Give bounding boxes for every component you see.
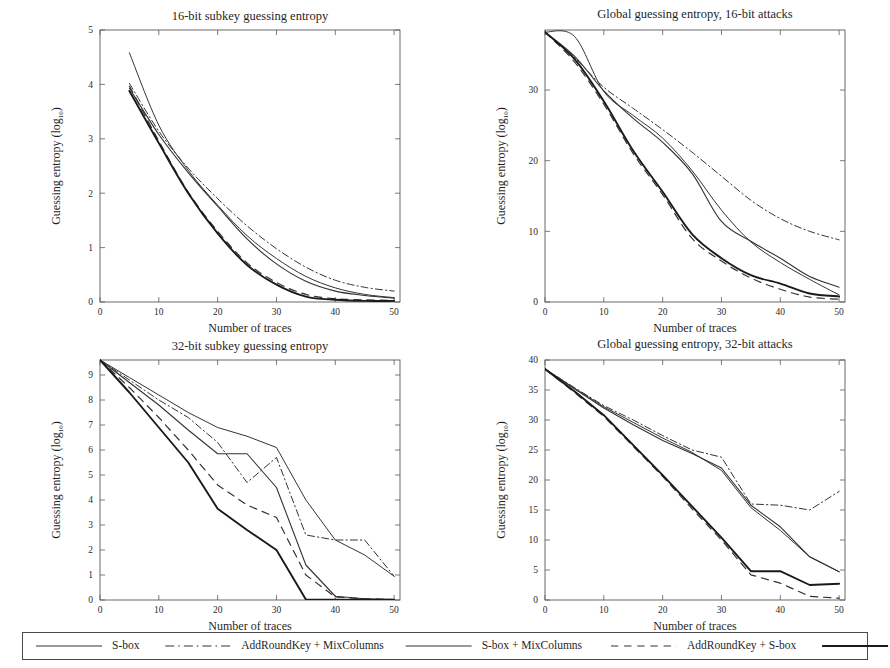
x-axis-label: Number of traces — [208, 321, 292, 335]
series-line — [100, 360, 394, 600]
y-tick-label: 5 — [88, 470, 93, 480]
x-tick-label: 10 — [154, 307, 164, 317]
x-axis-label: Number of traces — [208, 619, 292, 633]
chart-title: 16-bit subkey guessing entropy — [172, 9, 329, 23]
y-tick-label: 2 — [88, 545, 93, 555]
x-tick-label: 20 — [658, 605, 668, 615]
x-tick-label: 50 — [389, 307, 399, 317]
series-line — [129, 91, 394, 301]
plot-frame — [545, 30, 845, 302]
legend-item-3[interactable]: AddRoundKey + S-box — [611, 639, 797, 652]
y-tick-label: 5 — [88, 25, 93, 35]
x-tick-label: 20 — [213, 307, 223, 317]
series-line — [129, 88, 394, 298]
chart-tl: 16-bit subkey guessing entropy0102030405… — [0, 0, 445, 334]
y-tick-label: 0 — [88, 595, 93, 605]
y-tick-label: 3 — [88, 134, 93, 144]
x-tick-label: 0 — [543, 307, 548, 317]
legend-label: AddRoundKey + MixColumns — [241, 639, 384, 652]
y-tick-label: 8 — [88, 395, 93, 405]
legend-label: S-box — [112, 639, 140, 651]
y-tick-label: 4 — [88, 80, 93, 90]
y-tick-label: 3 — [88, 520, 93, 530]
y-tick-label: 0 — [88, 297, 93, 307]
svg-text:Guessing entropy (log10): Guessing entropy (log10) — [494, 421, 510, 539]
x-tick-label: 0 — [543, 605, 548, 615]
y-axis-label: Guessing entropy (log10) — [49, 107, 65, 225]
y-tick-label: 1 — [88, 243, 93, 253]
x-tick-label: 30 — [717, 605, 727, 615]
series-line — [545, 369, 839, 572]
y-tick-label: 5 — [533, 565, 538, 575]
chart-panel-16bit-subkey: 16-bit subkey guessing entropy0102030405… — [0, 0, 445, 334]
x-tick-label: 30 — [272, 307, 282, 317]
y-tick-label: 0 — [533, 297, 538, 307]
x-tick-label: 40 — [776, 605, 786, 615]
x-tick-label: 30 — [717, 307, 727, 317]
plot-frame — [545, 360, 845, 600]
x-tick-label: 10 — [599, 605, 609, 615]
y-axis-label: Guessing entropy (log10) — [494, 421, 510, 539]
legend-svg: S-boxAddRoundKey + MixColumnsS-box + Mix… — [22, 632, 868, 660]
x-tick-label: 10 — [154, 605, 164, 615]
series-line — [545, 32, 839, 296]
series-line — [129, 83, 394, 291]
series-layer — [545, 369, 839, 598]
chart-tr: Global guessing entropy, 16-bit attacks0… — [445, 0, 890, 334]
y-tick-label: 4 — [88, 495, 93, 505]
y-tick-label: 40 — [529, 355, 539, 365]
y-tick-label: 15 — [529, 505, 539, 515]
y-tick-label: 6 — [88, 445, 93, 455]
chart-br: Global guessing entropy, 32-bit attacks0… — [445, 334, 890, 630]
y-tick-label: 0 — [533, 595, 538, 605]
y-tick-label: 35 — [529, 385, 539, 395]
chart-title: Global guessing entropy, 16-bit attacks — [597, 7, 792, 21]
y-tick-label: 10 — [529, 535, 539, 545]
chart-title: Global guessing entropy, 32-bit attacks — [597, 337, 792, 351]
chart-title: 32-bit subkey guessing entropy — [172, 339, 329, 353]
series-line — [129, 86, 394, 300]
chart-bl: 32-bit subkey guessing entropy0102030405… — [0, 334, 445, 630]
x-tick-label: 20 — [213, 605, 223, 615]
svg-text:Guessing entropy (log10): Guessing entropy (log10) — [494, 107, 510, 225]
series-line — [545, 369, 839, 585]
series-layer — [100, 360, 394, 600]
x-axis-label: Number of traces — [653, 619, 737, 633]
legend-label: S-box + MixColumns — [482, 639, 583, 651]
plot-frame — [100, 30, 400, 302]
svg-text:Guessing entropy (log10): Guessing entropy (log10) — [49, 421, 65, 539]
series-line — [100, 360, 394, 576]
x-tick-label: 50 — [834, 605, 844, 615]
y-tick-label: 2 — [88, 189, 93, 199]
x-tick-label: 50 — [834, 307, 844, 317]
y-tick-label: 9 — [88, 370, 93, 380]
svg-text:Guessing entropy (log10): Guessing entropy (log10) — [49, 107, 65, 225]
series-line — [545, 32, 839, 287]
legend-label: AddRoundKey + S-box — [687, 639, 797, 652]
y-tick-label: 20 — [529, 156, 539, 166]
series-line — [545, 369, 839, 510]
series-layer — [545, 31, 839, 299]
chart-panel-32bit-subkey: 32-bit subkey guessing entropy0102030405… — [0, 334, 445, 630]
legend-item-0[interactable]: S-box — [36, 639, 140, 651]
legend-item-2[interactable]: S-box + MixColumns — [406, 639, 583, 651]
x-tick-label: 0 — [98, 307, 103, 317]
y-tick-label: 30 — [529, 415, 539, 425]
legend-item-4[interactable]: All three — [822, 639, 890, 651]
figure-root: 16-bit subkey guessing entropy0102030405… — [0, 0, 890, 668]
y-axis-label: Guessing entropy (log10) — [494, 107, 510, 225]
chart-panel-global-32bit: Global guessing entropy, 32-bit attacks0… — [445, 334, 890, 630]
legend-item-1[interactable]: AddRoundKey + MixColumns — [165, 639, 384, 652]
series-line — [100, 360, 394, 600]
y-tick-label: 10 — [529, 227, 539, 237]
chart-panel-global-16bit: Global guessing entropy, 16-bit attacks0… — [445, 0, 890, 334]
figure-legend: S-boxAddRoundKey + MixColumnsS-box + Mix… — [22, 632, 868, 660]
x-tick-label: 40 — [331, 307, 341, 317]
x-axis-label: Number of traces — [653, 321, 737, 335]
y-tick-label: 25 — [529, 445, 539, 455]
series-layer — [129, 53, 394, 301]
series-line — [545, 31, 839, 295]
x-tick-label: 30 — [272, 605, 282, 615]
y-axis-label: Guessing entropy (log10) — [49, 421, 65, 539]
x-tick-label: 40 — [331, 605, 341, 615]
